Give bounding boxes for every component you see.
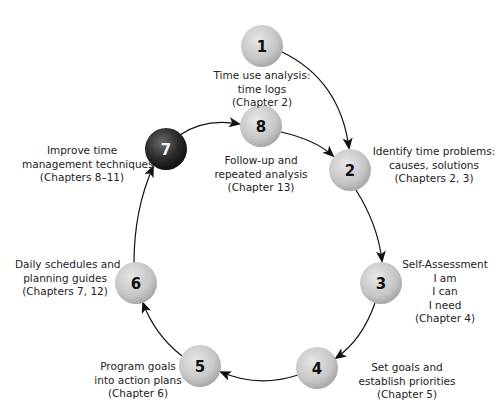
- node-6: 6: [115, 262, 157, 304]
- arrow-7-to-8: [180, 122, 239, 135]
- node-4-label: Set goals and establish priorities (Chap…: [352, 361, 462, 402]
- node-5-label: Program goals into action plans (Chapter…: [88, 360, 188, 401]
- node-4-number: 4: [312, 360, 322, 378]
- node-3-label: Self-Assessment I am I can I need (Chapt…: [400, 258, 490, 326]
- arrow-3-to-4: [336, 303, 375, 358]
- node-1-label: Time use analysis: time logs (Chapter 2): [212, 69, 312, 110]
- cycle-diagram: 1 8 2 3 4 5 6 7: [0, 0, 497, 420]
- arrow-5-to-6: [143, 303, 182, 356]
- node-8: 8: [240, 105, 282, 147]
- node-6-label: Daily schedules and planning guides (Cha…: [15, 258, 115, 299]
- node-8-number: 8: [256, 118, 266, 136]
- node-2-label: Identify time problems: causes, solution…: [371, 145, 497, 186]
- node-7-number: 7: [161, 141, 171, 159]
- node-1-number: 1: [257, 38, 267, 56]
- node-3-number: 3: [376, 275, 386, 293]
- node-5-number: 5: [195, 358, 205, 376]
- node-2-number: 2: [345, 162, 355, 180]
- node-8-label: Follow-up and repeated analysis (Chapter…: [211, 154, 311, 195]
- node-6-number: 6: [131, 275, 141, 293]
- arrow-4-to-5: [221, 372, 298, 381]
- node-1: 1: [241, 25, 283, 67]
- node-3: 3: [360, 262, 402, 304]
- node-7-label: Improve time management techniques (Chap…: [22, 144, 142, 185]
- arrow-2-to-3: [356, 190, 382, 261]
- node-2: 2: [329, 149, 371, 191]
- node-4: 4: [296, 347, 338, 389]
- arrow-8-to-2: [281, 132, 333, 156]
